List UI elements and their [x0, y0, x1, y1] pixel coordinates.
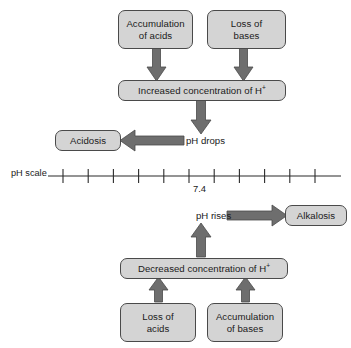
- arrow-increased-to-ph-drops-icon: [189, 98, 213, 136]
- node-decreased-concentration-of-h: Decreased concentration of H+: [120, 258, 288, 279]
- node-label: Alkalosis: [297, 210, 335, 222]
- arrow-shape: [234, 47, 253, 81]
- arrow-decreased-to-ph-rises-icon: [189, 221, 213, 259]
- arrow-accum-bases-to-decreased-icon: [234, 275, 257, 304]
- arrow-loss-acids-to-decreased-icon: [147, 275, 170, 304]
- arrow-shape: [120, 130, 184, 151]
- node-label-superscript: +: [262, 83, 266, 90]
- node-label: Decreased concentration of H+: [138, 263, 270, 275]
- node-label: Accumulation of acids: [126, 18, 184, 41]
- node-accumulation-of-bases: Accumulation of bases: [207, 303, 283, 342]
- arrow-shape: [147, 47, 166, 81]
- edge-label-ph-rises: pH rises: [196, 210, 231, 221]
- acid-base-balance-diagram: pH scale7.4Accumulation of acidsLoss of …: [0, 0, 351, 348]
- node-increased-concentration-of-h: Increased concentration of H+: [118, 80, 286, 101]
- arrow-shape: [227, 205, 287, 226]
- ph-scale-label: pH scale: [11, 168, 47, 178]
- node-label: Loss of bases: [231, 18, 262, 41]
- arrow-acids-to-increased-icon: [145, 45, 168, 83]
- node-label: Loss of acids: [142, 311, 173, 334]
- ph-scale-tick-value-7-4: 7.4: [193, 183, 206, 194]
- arrow-bases-to-increased-icon: [232, 45, 255, 83]
- node-label: Accumulation of bases: [216, 311, 274, 334]
- arrow-shape: [236, 277, 255, 302]
- node-acidosis: Acidosis: [55, 130, 121, 151]
- arrow-shape: [149, 277, 168, 302]
- arrow-ph-drops-to-acidosis-icon: [118, 128, 186, 153]
- arrow-ph-rises-to-alkalosis-icon: [225, 203, 289, 228]
- node-label: Increased concentration of H+: [138, 85, 266, 97]
- arrow-shape: [191, 100, 211, 134]
- node-alkalosis: Alkalosis: [285, 205, 347, 226]
- edge-label-ph-drops: pH drops: [186, 135, 225, 146]
- arrow-shape: [191, 223, 211, 257]
- node-accumulation-of-acids: Accumulation of acids: [118, 10, 193, 49]
- node-label: Acidosis: [70, 135, 106, 147]
- node-loss-of-bases: Loss of bases: [207, 10, 286, 49]
- node-label-superscript: +: [266, 261, 270, 268]
- node-loss-of-acids: Loss of acids: [120, 303, 196, 342]
